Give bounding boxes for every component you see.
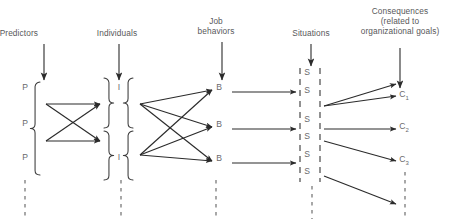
edge-individual-behavior-1	[140, 90, 212, 104]
node-consequence-1: C1	[399, 90, 409, 101]
behavior-to-situation-edges	[232, 92, 296, 163]
node-predictor-1: P	[22, 83, 28, 92]
column-heading-predictors: Predictors	[0, 28, 38, 38]
node-situation-1: S	[304, 68, 310, 77]
column-heading-individuals-line-1: Individuals	[97, 28, 137, 38]
node-predictor-2: P	[22, 119, 28, 128]
predictors-brace	[30, 82, 40, 175]
column-heading-job-behaviors: Jobbehaviors	[198, 16, 235, 36]
node-situation-4: S	[304, 132, 310, 141]
edge-individual-behavior-2	[140, 104, 212, 127]
behavior-model-diagram: PredictorsIndividualsJobbehaviorsSituati…	[0, 0, 460, 221]
situation-to-consequence-edges	[324, 84, 396, 204]
node-behavior-3: B	[216, 154, 222, 163]
node-individual-2: I	[118, 153, 120, 162]
node-consequence-2-subscript: 2	[405, 127, 408, 133]
column-heading-consequences-line-1: Consequences	[361, 6, 440, 16]
node-individual-1: I	[118, 83, 120, 92]
node-consequence-2: C2	[399, 122, 409, 133]
column-heading-individuals: Individuals	[97, 28, 137, 38]
column-heading-job-behaviors-line-2: behaviors	[198, 26, 235, 36]
node-behavior-2: B	[216, 120, 222, 129]
individuals-brace-right-bottom	[123, 131, 133, 180]
predictor-to-individual-edges	[46, 104, 100, 141]
edge-individual-behavior-5	[140, 127, 212, 155]
individual-to-behavior-edges	[140, 90, 212, 161]
node-consequence-3-subscript: 3	[405, 160, 408, 166]
column-heading-job-behaviors-line-1: Job	[198, 16, 235, 26]
individuals-brace-left-top	[104, 78, 114, 128]
column-heading-predictors-line-1: Predictors	[0, 28, 38, 38]
node-situation-6: S	[304, 167, 310, 176]
node-situation-3: S	[304, 115, 310, 124]
edge-situation-consequence-4	[324, 141, 396, 161]
edge-situation-consequence-2	[324, 96, 396, 106]
node-predictor-3: P	[22, 153, 28, 162]
edge-situation-consequence-5	[324, 176, 396, 204]
node-consequence-1-subscript: 1	[405, 95, 408, 101]
edge-situation-consequence-1	[324, 84, 396, 106]
edge-individual-behavior-6	[140, 155, 212, 161]
edge-individual-behavior-3	[140, 104, 212, 161]
node-behavior-1: B	[216, 83, 222, 92]
individuals-brace-left-bottom	[104, 131, 114, 180]
edge-individual-behavior-4	[140, 90, 212, 155]
node-situation-2: S	[304, 86, 310, 95]
node-consequence-3: C3	[399, 155, 409, 166]
individuals-brace-right-top	[123, 78, 133, 128]
column-heading-situations: Situations	[292, 28, 329, 38]
column-heading-consequences-line-3: organizational goals)	[361, 26, 440, 36]
column-heading-consequences: Consequences(related toorganizational go…	[361, 6, 440, 37]
column-heading-situations-line-1: Situations	[292, 28, 329, 38]
node-situation-5: S	[304, 150, 310, 159]
column-dashed-lines-group	[25, 172, 405, 219]
column-heading-consequences-line-2: (related to	[361, 16, 440, 26]
